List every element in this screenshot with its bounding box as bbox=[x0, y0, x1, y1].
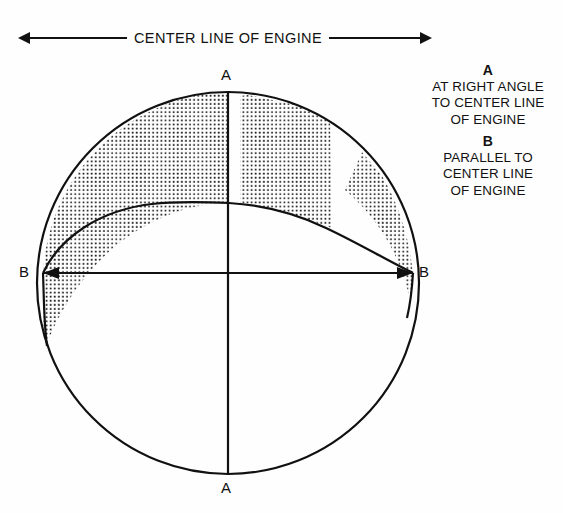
shaded-region-left-crescent bbox=[0, 0, 563, 513]
bore-circle-drawing bbox=[0, 0, 563, 513]
label-b-left: B bbox=[19, 263, 29, 280]
diagram-root: CENTER LINE OF ENGINE A AT RIGHT ANGLE T… bbox=[0, 0, 563, 513]
label-a-top: A bbox=[221, 66, 231, 83]
label-a-bottom: A bbox=[221, 479, 231, 496]
shaded-regions bbox=[0, 0, 563, 513]
label-b-right: B bbox=[419, 263, 429, 280]
